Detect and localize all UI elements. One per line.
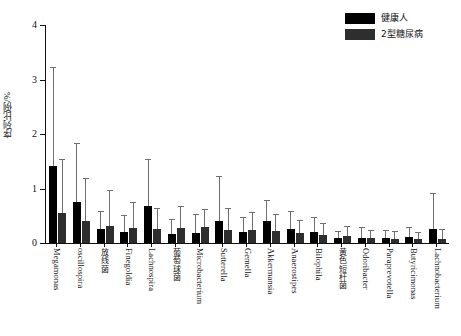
error-bar [361,228,362,237]
bar-healthy [239,25,247,243]
x-tick-mark [80,243,81,247]
bar-healthy [334,25,342,243]
bar-rect [58,213,66,243]
bar-group [283,25,307,243]
x-tick-label: Akkermansia [266,248,275,294]
x-tick-mark [341,243,342,247]
x-tick-mark [175,243,176,247]
bar-rect [429,229,437,243]
legend-swatch-healthy-icon [345,13,375,24]
bar-rect [144,206,152,243]
bar-group [93,25,117,243]
bar-rect [296,233,304,243]
bar-diabetes [153,25,161,243]
bar-group [116,25,140,243]
x-tick-label: 黄色短杆菌 [338,248,347,290]
bar-rect [215,221,223,243]
error-bar-cap [225,208,231,209]
bar-rect [391,239,399,243]
bar-healthy [382,25,390,243]
bar-diabetes [319,25,327,243]
y-tick-label: 0 [32,238,37,248]
x-tick-mark [151,243,152,247]
x-tick-label: 葡萄球菌 [171,248,180,281]
error-bar-cap [406,227,412,228]
error-bar-cap [216,176,222,177]
bar-rect [438,239,446,243]
bar-healthy [192,25,200,243]
x-label-cell: oscillospira [69,248,93,336]
bar-rect [106,226,114,243]
x-tick-mark [199,243,200,247]
bar-group [69,25,93,243]
bar-healthy [215,25,223,243]
x-tick-label: Megamonas [52,248,61,290]
bar-diabetes [224,25,232,243]
error-bar-cap [344,226,350,227]
bar-rect [192,233,200,243]
error-bar [62,160,63,213]
bar-rect [310,232,318,243]
bar-diabetes [82,25,90,243]
error-bar [100,212,101,229]
x-label-cell: Akkermansia [259,248,283,336]
bar-diabetes [343,25,351,243]
error-bar-cap [169,219,175,220]
error-bar-cap [288,211,294,212]
y-tick-label: 3 [32,75,37,85]
error-bar-cap [240,217,246,218]
error-bar [124,216,125,232]
error-bar [370,231,371,238]
error-bar [195,215,196,233]
bar-group [378,25,402,243]
error-bar [299,221,300,233]
error-bar-cap [193,214,199,215]
plot-area: 01234 [45,25,449,243]
bar-rect [263,221,271,243]
error-bar-cap [273,214,279,215]
error-bar-cap [59,159,65,160]
bar-rect [367,238,375,243]
bar-diabetes [177,25,185,243]
error-bar-cap [415,232,421,233]
error-bar-cap [50,67,56,68]
bar-healthy [310,25,318,243]
bar-diabetes [201,25,209,243]
error-bar [133,203,134,228]
bar-diabetes [438,25,446,243]
bar-group [45,25,69,243]
bar-rect [272,231,280,243]
x-tick-label: Odoribacter [361,248,370,290]
error-bar [85,179,86,222]
x-label-cell: Butyricimonas [401,248,425,336]
error-bar-cap [430,193,436,194]
bar-diabetes [367,25,375,243]
bar-group [140,25,164,243]
error-bar-cap [368,230,374,231]
x-label-cell: 葡萄球菌 [164,248,188,336]
x-label-cell: Gemella [235,248,259,336]
error-bar-cap [264,200,270,201]
bar-healthy [144,25,152,243]
error-bar-cap [145,159,151,160]
bar-rect [120,232,128,243]
bar-rect [239,232,247,243]
bar-group [401,25,425,243]
bar-rect [82,221,90,243]
error-bar-cap [320,223,326,224]
error-bar-cap [202,209,208,210]
error-bar [409,228,410,237]
error-bar [314,218,315,232]
bar-healthy [120,25,128,243]
error-bar [171,220,172,234]
error-bar [204,210,205,227]
x-label-cell: Anaerostipes [283,248,307,336]
bar-group [235,25,259,243]
bar-group [354,25,378,243]
bar-diabetes [391,25,399,243]
y-tick-label: 2 [32,129,37,139]
y-axis-label: 序列比例/% [2,92,18,138]
error-bar [347,227,348,236]
x-axis-labels: Megamonasoscillospira放线菌FinegoldiaLachno… [45,248,449,336]
error-bar-cap [297,220,303,221]
